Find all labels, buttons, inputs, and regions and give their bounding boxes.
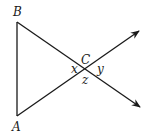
- angle-label-x: x: [71, 63, 78, 75]
- ray-b-through-c: [17, 22, 140, 107]
- angle-label-z: z: [82, 74, 88, 86]
- angle-label-y: y: [97, 63, 104, 75]
- geometry-figure: B A C x y z: [0, 0, 152, 140]
- ray-a-through-c: [17, 31, 139, 116]
- point-label-b: B: [13, 6, 22, 18]
- point-label-a: A: [12, 121, 21, 133]
- point-label-c: C: [81, 54, 90, 66]
